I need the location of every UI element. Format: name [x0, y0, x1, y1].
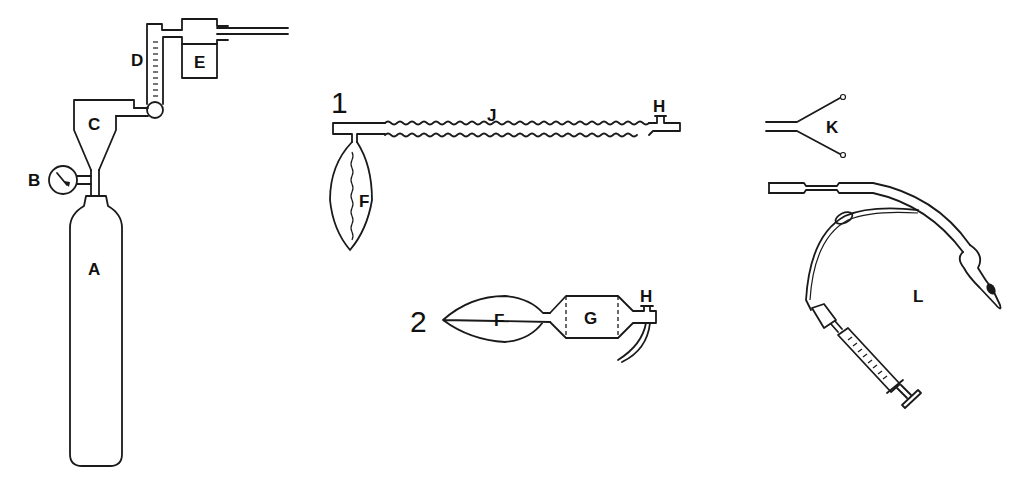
circuit-1-number: 1	[331, 86, 348, 119]
regulator-to-flowmeter-pipe	[116, 108, 148, 116]
label-J: J	[487, 106, 496, 125]
vaporizer-E: E	[194, 28, 288, 72]
circuit-2-number: 2	[410, 305, 427, 338]
equipment-diagram: A B C	[0, 0, 1028, 477]
cylinder-stem	[91, 170, 99, 196]
regulator-C: C	[74, 100, 134, 170]
label-C: C	[88, 115, 100, 134]
label-A: A	[88, 260, 100, 279]
gas-cylinder-A: A	[70, 196, 122, 466]
corrugated-tube-J	[385, 122, 649, 125]
y-piece-K: K	[766, 95, 846, 158]
label-H-circuit-2: H	[640, 287, 652, 306]
label-F-circuit-1: F	[359, 192, 369, 211]
endotracheal-tube-L: L	[769, 183, 1001, 408]
circuit-1: 1 J H F	[330, 86, 680, 250]
label-K: K	[826, 118, 839, 137]
label-E: E	[194, 53, 205, 72]
label-D: D	[131, 51, 143, 70]
pressure-gauge-B: B	[28, 166, 91, 194]
label-B: B	[28, 171, 40, 190]
label-G: G	[584, 309, 597, 328]
flowmeter-D: D	[131, 19, 228, 118]
label-H-circuit-1: H	[653, 97, 665, 116]
circuit-2: 2 F G H	[410, 287, 656, 362]
flowmeter-scale	[153, 42, 158, 96]
syringe	[838, 328, 900, 392]
label-F-circuit-2: F	[494, 311, 504, 330]
label-L: L	[913, 287, 923, 306]
